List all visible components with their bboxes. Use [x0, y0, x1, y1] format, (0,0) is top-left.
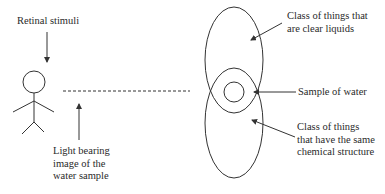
stick-figure-icon	[13, 71, 54, 134]
light-bearing-line-3: water sample	[53, 170, 110, 183]
chemical-structure-arrow-icon	[252, 120, 295, 137]
clear-liquids-ellipse	[205, 7, 263, 113]
chemical-structure-line-2: that have the same	[297, 134, 375, 147]
chemical-structure-line-1: Class of things	[297, 121, 375, 134]
retinal-stimuli-text: Retinal stimuli	[17, 15, 79, 28]
water-reference-diagram: Retinal stimuli Light bearing image of t…	[0, 0, 385, 194]
clear-liquids-line-1: Class of things that	[287, 10, 368, 23]
sample-of-water-text: Sample of water	[298, 86, 367, 99]
chemical-structure-line-3: chemical structure	[297, 146, 375, 159]
clear-liquids-label: Class of things that are clear liquids	[287, 10, 368, 35]
figure-right-arm	[34, 101, 54, 112]
chemical-structure-ellipse	[205, 68, 263, 178]
figure-left-arm	[13, 101, 34, 112]
light-bearing-line-1: Light bearing	[53, 145, 110, 158]
clear-liquids-line-2: are clear liquids	[287, 23, 368, 36]
figure-left-leg	[22, 122, 34, 134]
chemical-structure-label: Class of things that have the same chemi…	[297, 121, 375, 159]
figure-head	[23, 71, 45, 93]
water-sample-circle	[224, 82, 244, 102]
sample-of-water-label: Sample of water	[298, 86, 367, 99]
light-bearing-label: Light bearing image of the water sample	[53, 145, 110, 183]
retinal-stimuli-label: Retinal stimuli	[17, 15, 79, 28]
light-bearing-line-2: image of the	[53, 158, 110, 171]
figure-right-leg	[34, 122, 44, 132]
